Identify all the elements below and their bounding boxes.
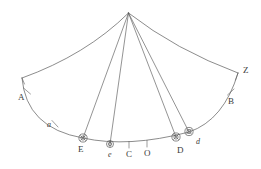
circled-marker-group bbox=[79, 127, 193, 147]
ray-apex-to-d-upper bbox=[129, 13, 177, 137]
ray-group bbox=[83, 13, 189, 144]
point-label-D: D bbox=[177, 146, 184, 155]
point-label-E: E bbox=[78, 145, 84, 154]
arc-group bbox=[22, 13, 238, 142]
tick-mark-b bbox=[228, 89, 235, 95]
point-label-C: C bbox=[126, 150, 132, 159]
marker-e-upper-icon bbox=[79, 134, 87, 142]
arc-upper-left bbox=[22, 13, 129, 78]
point-label-Z: Z bbox=[243, 66, 249, 75]
point-label-B: B bbox=[228, 97, 234, 106]
point-label-d: d bbox=[196, 138, 200, 146]
figure-canvas bbox=[0, 0, 261, 169]
ray-apex-to-d-lower bbox=[129, 13, 190, 132]
marker-e-lower-icon bbox=[107, 141, 114, 148]
tick-base-right bbox=[236, 73, 239, 80]
marker-d-upper-icon bbox=[172, 133, 180, 141]
tick-mark-a-lower bbox=[52, 121, 58, 128]
arc-upper-right bbox=[129, 13, 239, 73]
ray-apex-to-e-lower bbox=[110, 13, 129, 144]
ray-apex-to-e-upper bbox=[83, 13, 129, 138]
geometric-figure: A a E e C O D d B Z bbox=[0, 0, 261, 169]
arc-lower-horizon bbox=[22, 73, 238, 142]
marker-d-lower-icon bbox=[185, 127, 193, 135]
point-label-O: O bbox=[144, 149, 151, 158]
point-label-e: e bbox=[108, 151, 112, 159]
tick-mark-group bbox=[22, 73, 238, 148]
point-label-A: A bbox=[18, 93, 25, 102]
point-label-a: a bbox=[47, 121, 51, 129]
